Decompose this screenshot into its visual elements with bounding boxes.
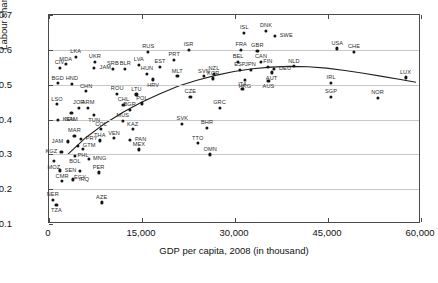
scatter-point	[274, 35, 277, 38]
scatter-point	[87, 157, 90, 160]
scatter-point-label: SWE	[280, 32, 293, 38]
scatter-point-label: PER	[93, 164, 105, 170]
scatter-point	[189, 95, 192, 98]
scatter-point-label: CZE	[185, 88, 197, 94]
scatter-point-label: IRQ	[79, 176, 89, 182]
y-gridline	[49, 189, 419, 190]
scatter-point	[259, 60, 262, 63]
scatter-point	[266, 65, 269, 68]
x-tick-mark	[235, 218, 236, 222]
scatter-point-label: SRB	[107, 60, 119, 66]
scatter-point	[272, 67, 275, 70]
scatter-point-label: CHN	[80, 83, 92, 89]
scatter-point	[77, 106, 80, 109]
scatter-point	[173, 58, 176, 61]
x-tick-label: 15,000	[126, 227, 155, 238]
scatter-point-label: IRL	[327, 74, 336, 80]
scatter-point	[140, 102, 143, 105]
scatter-point-label: LKA	[70, 48, 81, 54]
scatter-point-label: ISR	[184, 41, 194, 47]
top-cropped-caption	[300, 0, 438, 10]
scatter-point-label: DNK	[260, 22, 272, 28]
x-tick-mark-top	[421, 15, 422, 19]
scatter-point-label: BGD	[51, 75, 63, 81]
scatter-point-label: AUS	[263, 83, 275, 89]
scatter-point-label: THA	[94, 132, 106, 138]
scatter-point	[55, 203, 58, 206]
scatter-point-label: BHR	[201, 119, 213, 125]
scatter-point	[241, 88, 244, 91]
scatter-point	[243, 31, 246, 34]
scatter-point	[77, 144, 80, 147]
scatter-point-label: ROU	[111, 85, 124, 91]
scatter-point-label: POL	[136, 95, 148, 101]
scatter-point	[240, 48, 243, 51]
scatter-point	[60, 180, 63, 183]
y-tick-mark	[49, 120, 53, 121]
scatter-point-label: ISL	[240, 24, 249, 30]
scatter-point-label: BOL	[69, 158, 81, 164]
y-tick-mark	[49, 85, 53, 86]
scatter-point	[74, 55, 77, 58]
y-gridline	[49, 85, 419, 86]
scatter-point	[113, 137, 116, 140]
scatter-point	[99, 128, 102, 131]
scatter-point-label: JAM	[52, 138, 64, 144]
scatter-point	[238, 68, 241, 71]
scatter-point	[97, 171, 100, 174]
scatter-point	[292, 65, 295, 68]
scatter-point-label: MAR	[68, 127, 81, 133]
scatter-point	[256, 49, 259, 52]
scatter-point-label: NLD	[288, 58, 300, 64]
scatter-point	[52, 159, 55, 162]
scatter-point	[70, 112, 73, 115]
scatter-point-label: LVA	[134, 56, 144, 62]
scatter-point-label: CIV	[55, 59, 65, 65]
scatter-point-label: KOR	[207, 70, 219, 76]
x-tick-mark-top	[328, 15, 329, 19]
scatter-point-label: HRV	[147, 82, 159, 88]
scatter-point	[264, 29, 267, 32]
scatter-point	[82, 148, 85, 151]
y-tick-label: 0.2	[0, 183, 12, 194]
scatter-point	[72, 178, 75, 181]
scatter-point	[58, 169, 61, 172]
x-tick-label: 0	[45, 227, 50, 238]
x-tick-label: 45,000	[312, 227, 341, 238]
scatter-point	[249, 68, 252, 71]
y-tick-label: 0.3	[0, 148, 12, 159]
scatter-point	[206, 126, 209, 129]
scatter-point-label: TZA	[51, 207, 62, 213]
scatter-point	[60, 150, 63, 153]
scatter-point-label: MUS	[116, 112, 129, 118]
scatter-point-label: USA	[331, 40, 343, 46]
scatter-point	[98, 139, 101, 142]
scatter-point	[270, 71, 273, 74]
scatter-point	[267, 79, 270, 82]
y-tick-mark	[49, 154, 53, 155]
y-tick-label: 0.4	[0, 113, 12, 124]
scatter-point	[212, 77, 215, 80]
scatter-point	[181, 122, 184, 125]
scatter-point-label: GBR	[251, 42, 263, 48]
scatter-point	[93, 66, 96, 69]
scatter-point	[73, 154, 76, 157]
scatter-point	[121, 119, 124, 122]
scatter-point-label: BGR	[123, 101, 135, 107]
scatter-point	[376, 96, 379, 99]
fit-curve	[49, 15, 419, 222]
scatter-point	[176, 75, 179, 78]
scatter-point-label: ARM	[82, 99, 95, 105]
y-tick-label: 0.5	[0, 78, 12, 89]
x-tick-mark-top	[142, 15, 143, 19]
scatter-point-label: MNG	[93, 155, 106, 161]
scatter-point	[85, 90, 88, 93]
scatter-point-label: PRT	[169, 51, 180, 57]
y-tick-mark	[49, 224, 53, 225]
x-tick-mark-top	[235, 15, 236, 19]
scatter-point-label: EST	[154, 58, 165, 64]
scatter-point	[111, 67, 114, 70]
scatter-point	[352, 50, 355, 53]
scatter-point	[330, 95, 333, 98]
scatter-point-label: KEN	[63, 116, 75, 122]
